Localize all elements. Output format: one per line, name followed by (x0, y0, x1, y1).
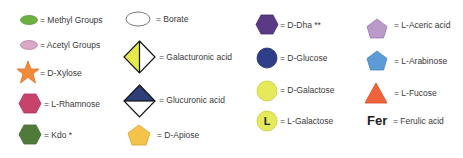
legend-label: = D-Xylose (40, 68, 82, 78)
orange-star-icon (16, 60, 40, 84)
legend-label: = L-Galactose (280, 116, 333, 126)
crimson-hexagon-icon (18, 93, 42, 114)
navy-circle-icon (256, 47, 278, 69)
fer-abbreviation: Fer (367, 113, 387, 128)
legend-label: = Glucuronic acid (159, 95, 225, 105)
lilac-pentagon-icon (366, 18, 388, 39)
svg-text:L: L (264, 115, 271, 127)
yellow-pentagon-icon (127, 124, 151, 146)
legend-label: = D-Glucose (280, 53, 327, 63)
yellow-circle-icon (256, 80, 278, 102)
red-orange-triangle-icon (364, 82, 388, 104)
legend-label: = Borate (156, 14, 188, 24)
half-navy-diamond-icon (123, 84, 156, 118)
legend-label: = Kdo * (44, 130, 72, 140)
legend-label: = D-Galactose (280, 85, 335, 95)
green-ellipse-icon (20, 15, 38, 25)
legend-label: = Methyl Groups (40, 15, 103, 25)
legend-label: = Galacturonic acid (159, 52, 232, 62)
yellow-circle-l-icon: L (256, 110, 278, 132)
legend-label: = L-Aceric acid (394, 20, 450, 30)
pink-ellipse-icon (20, 40, 38, 50)
blue-pentagon-icon (366, 50, 388, 71)
legend-label: = Acetyl Groups (40, 40, 100, 50)
legend-label: = L-Arabinose (394, 56, 447, 66)
half-yellow-diamond-icon (123, 40, 156, 74)
legend-label: = L-Rhamnose (44, 99, 100, 109)
legend-label: = D-Apiose (157, 130, 199, 140)
legend-label: = Ferulic acid (393, 116, 444, 126)
green-hexagon-icon (18, 124, 42, 145)
white-ellipse-icon (125, 11, 151, 27)
purple-hexagon-icon (255, 14, 279, 35)
legend-label: = L-Fucose (394, 88, 437, 98)
legend-label: = D-Dha ** (280, 20, 321, 30)
